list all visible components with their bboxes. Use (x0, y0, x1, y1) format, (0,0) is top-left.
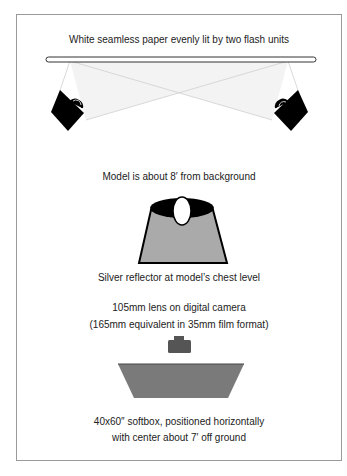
model-icon (139, 197, 227, 263)
model-label: Model is about 8′ from background (16, 170, 342, 183)
lens-label-line2: (165mm equivalent in 35mm film format) (16, 318, 342, 331)
right-flash-icon (274, 90, 308, 131)
softbox-label-line2: with center about 7′ off ground (16, 431, 342, 444)
reflector-label: Silver reflector at model’s chest level (16, 271, 342, 284)
softbox-label-line1: 40x60″ softbox, positioned horizontally (16, 415, 342, 428)
background-label: White seamless paper evenly lit by two f… (16, 33, 342, 46)
left-flash-icon (51, 90, 84, 131)
softbox-icon (118, 364, 244, 398)
lens-label-line1: 105mm lens on digital camera (16, 301, 342, 314)
seamless-paper-icon (46, 57, 316, 62)
camera-icon (168, 336, 191, 353)
lighting-diagram (0, 0, 347, 476)
light-beams (54, 61, 304, 120)
